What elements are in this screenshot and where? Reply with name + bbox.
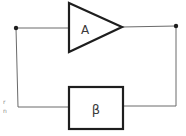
- feedback-diagram: A β r n: [0, 0, 186, 136]
- output-node-dot: [174, 24, 178, 28]
- amplifier-block: [69, 3, 122, 52]
- amplifier-label: A: [81, 23, 90, 37]
- wire-left-up: [16, 28, 18, 107]
- input-node-dot: [14, 26, 18, 30]
- margin-mark-1: r: [3, 98, 6, 105]
- feedback-label: β: [92, 102, 100, 117]
- margin-mark-2: n: [3, 107, 7, 114]
- wire-amplifier-to-output: [122, 26, 176, 27]
